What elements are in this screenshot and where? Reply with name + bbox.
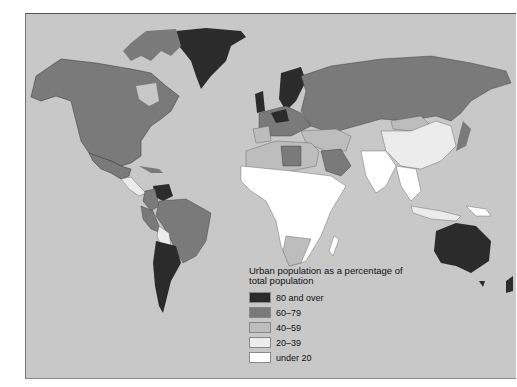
legend-swatch-60-79 (249, 307, 271, 318)
map-legend: Urban population as a percentage of tota… (249, 266, 419, 365)
legend-swatch-20-39 (249, 337, 271, 348)
argentina-chile (153, 241, 181, 313)
legend-item: 20–39 (249, 335, 419, 350)
india (361, 151, 396, 193)
legend-swatch-40-59 (249, 322, 271, 333)
legend-label: 40–59 (276, 323, 301, 333)
southeast-asia (396, 166, 421, 201)
north-america (31, 59, 179, 166)
legend-label: 80 and over (276, 293, 324, 303)
saudi-arabia (321, 149, 351, 176)
iberia (253, 126, 271, 143)
indonesia (411, 206, 461, 221)
legend-swatch-80-and-over (249, 292, 271, 303)
tasmania (479, 281, 485, 287)
libya (281, 146, 301, 166)
legend-swatch-under-20 (249, 352, 271, 363)
australia (434, 223, 491, 273)
legend-item: under 20 (249, 350, 419, 365)
new-guinea (466, 206, 491, 216)
cuba (139, 166, 163, 173)
greenland (176, 28, 246, 89)
legend-title: Urban population as a percentage of tota… (249, 266, 419, 286)
canada-arctic-islands (123, 29, 181, 61)
legend-label: under 20 (276, 353, 312, 363)
legend-item: 60–79 (249, 305, 419, 320)
world-map: Urban population as a percentage of tota… (25, 13, 516, 379)
japan (456, 121, 471, 151)
legend-label: 60–79 (276, 308, 301, 318)
uk (255, 91, 265, 113)
central-america (121, 177, 146, 196)
madagascar (329, 236, 339, 256)
legend-item: 80 and over (249, 290, 419, 305)
legend-item: 40–59 (249, 320, 419, 335)
new-zealand (506, 276, 513, 293)
scandinavia (279, 67, 306, 111)
legend-label: 20–39 (276, 338, 301, 348)
